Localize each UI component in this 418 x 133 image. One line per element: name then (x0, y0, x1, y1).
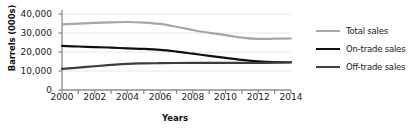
x-axis-title: Years (60, 113, 290, 123)
x-tick-label: 2002 (83, 92, 106, 102)
x-tick-label: 2000 (51, 92, 74, 102)
series-line-on-trade-sales (62, 46, 291, 62)
x-tick-label: 2006 (149, 92, 172, 102)
series-line-total-sales (62, 22, 291, 39)
x-tick-label: 2004 (116, 92, 139, 102)
x-tick-label: 2012 (247, 92, 270, 102)
legend-item-off-trade-sales: Off-trade sales (316, 58, 416, 76)
legend: Total sales On-trade sales Off-trade sal… (316, 22, 416, 76)
x-tick-label: 2010 (214, 92, 237, 102)
legend-line-icon (316, 66, 340, 68)
line-chart: Barrels (000s) 0 10,000 20,000 30,000 40… (0, 0, 418, 133)
series-line-off-trade-sales (62, 62, 291, 68)
x-tick-label: 2008 (181, 92, 204, 102)
legend-line-icon (316, 30, 340, 32)
legend-label: Off-trade sales (346, 62, 405, 72)
legend-line-icon (316, 48, 340, 50)
x-tick-label: 2014 (280, 92, 303, 102)
legend-item-total-sales: Total sales (316, 22, 416, 40)
legend-label: On-trade sales (346, 44, 405, 54)
legend-label: Total sales (346, 26, 388, 36)
legend-item-on-trade-sales: On-trade sales (316, 40, 416, 58)
